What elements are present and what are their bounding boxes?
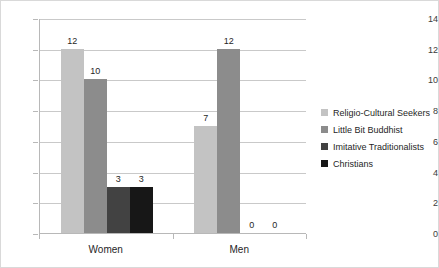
x-axis-tick-mark (173, 234, 174, 239)
legend-swatch-icon (321, 126, 328, 133)
gridline (40, 19, 306, 20)
y-axis-tick-mark (33, 80, 38, 81)
bar-value-label: 3 (107, 175, 130, 184)
x-axis-tick-mark (39, 234, 40, 239)
legend-item[interactable]: Christians (321, 155, 436, 172)
y-axis-tick-mark (33, 234, 38, 235)
bar-value-label: 3 (130, 175, 153, 184)
bar-value-label: 12 (217, 37, 240, 46)
legend-item[interactable]: Imitative Traditionalists (321, 138, 436, 155)
bar (61, 49, 84, 233)
legend-item-label: Religio-Cultural Seekers (333, 108, 430, 118)
legend-swatch-icon (321, 109, 328, 116)
bar-value-label: 0 (263, 221, 286, 230)
legend-item[interactable]: Little Bit Buddhist (321, 121, 436, 138)
bar-value-label: 12 (61, 37, 84, 46)
y-axis-tick-mark (33, 111, 38, 112)
x-axis-category-label: Women (66, 244, 146, 255)
y-axis-tick-mark (33, 19, 38, 20)
chart-legend: Religio-Cultural SeekersLittle Bit Buddh… (321, 104, 436, 172)
bar (107, 187, 130, 233)
bar (217, 49, 240, 233)
bar-value-label: 7 (194, 114, 217, 123)
y-axis-tick-mark (33, 142, 38, 143)
legend-item[interactable]: Religio-Cultural Seekers (321, 104, 436, 121)
x-axis-tick-mark (306, 234, 307, 239)
legend-item-label: Christians (333, 159, 373, 169)
bar (84, 79, 107, 233)
bar-value-label: 10 (84, 67, 107, 76)
legend-item-label: Little Bit Buddhist (333, 125, 403, 135)
y-axis-tick-label: 2 (408, 199, 438, 208)
y-axis-tick-label: 14 (408, 15, 438, 24)
y-axis-tick-mark (33, 173, 38, 174)
legend-swatch-icon (321, 160, 328, 167)
y-axis-tick-mark (33, 50, 38, 51)
y-axis-tick-label: 10 (408, 76, 438, 85)
bar (194, 126, 217, 234)
y-axis-tick-label: 0 (408, 230, 438, 239)
legend-swatch-icon (321, 143, 328, 150)
bar-value-label: 0 (240, 221, 263, 230)
plot-area: 12103371200 (39, 19, 306, 234)
y-axis-tick-label: 12 (408, 45, 438, 54)
x-axis-category-label: Men (199, 244, 279, 255)
legend-item-label: Imitative Traditionalists (333, 142, 424, 152)
y-axis-tick-mark (33, 203, 38, 204)
bar-chart: 12103371200 02468101214 WomenMen Religio… (0, 0, 439, 268)
bar (130, 187, 153, 233)
